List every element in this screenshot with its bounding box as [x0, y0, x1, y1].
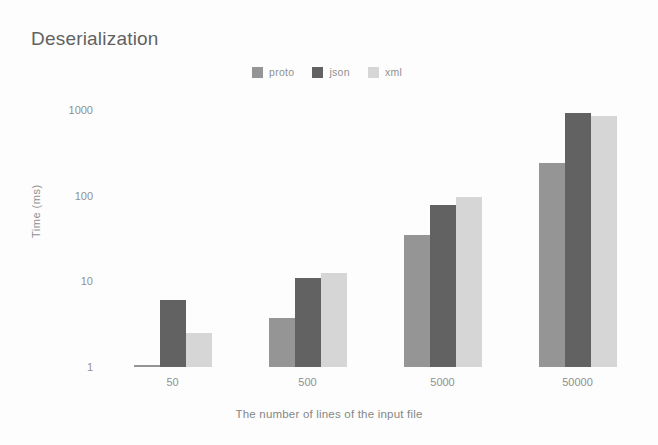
- bars-wrapper: [404, 110, 482, 367]
- chart-legend: protojsonxml: [252, 66, 402, 78]
- legend-item-xml[interactable]: xml: [368, 66, 402, 78]
- chart-figure: Deserialization protojsonxml Time (ms) 1…: [0, 0, 658, 445]
- legend-label-json: json: [329, 66, 349, 78]
- bars-wrapper: [134, 110, 212, 367]
- bar-xml-50000[interactable]: [591, 116, 617, 367]
- bars-wrapper: [269, 110, 347, 367]
- bar-proto-500[interactable]: [269, 318, 295, 367]
- bar-xml-500[interactable]: [321, 273, 347, 367]
- x-axis-title: The number of lines of the input file: [0, 408, 658, 420]
- y-tick-label: 1000: [69, 104, 93, 116]
- legend-swatch-json: [312, 67, 323, 78]
- legend-label-proto: proto: [269, 66, 294, 78]
- bars-wrapper: [539, 110, 617, 367]
- x-tick-label: 50000: [562, 376, 593, 388]
- bar-groups: 50500500050000: [105, 110, 645, 367]
- chart-title: Deserialization: [31, 28, 159, 50]
- bar-json-5000[interactable]: [430, 205, 456, 367]
- legend-swatch-xml: [368, 67, 379, 78]
- x-tick-label: 50: [166, 376, 178, 388]
- x-tick-label: 500: [298, 376, 316, 388]
- y-axis-title: Time (ms): [30, 184, 42, 238]
- bar-group-50000: 50000: [510, 110, 645, 367]
- legend-item-proto[interactable]: proto: [252, 66, 294, 78]
- y-tick-label: 100: [75, 190, 93, 202]
- legend-swatch-proto: [252, 67, 263, 78]
- bar-group-500: 500: [240, 110, 375, 367]
- y-tick-label: 10: [81, 275, 93, 287]
- bar-group-50: 50: [105, 110, 240, 367]
- x-tick-label: 5000: [430, 376, 454, 388]
- bar-group-5000: 5000: [375, 110, 510, 367]
- bar-proto-5000[interactable]: [404, 235, 430, 367]
- legend-label-xml: xml: [385, 66, 402, 78]
- bar-proto-50000[interactable]: [539, 163, 565, 367]
- plot-area: 1101001000 50500500050000: [105, 110, 645, 367]
- bar-proto-50[interactable]: [134, 365, 160, 367]
- bar-json-500[interactable]: [295, 278, 321, 367]
- bar-xml-50[interactable]: [186, 333, 212, 367]
- bar-xml-5000[interactable]: [456, 197, 482, 367]
- legend-item-json[interactable]: json: [312, 66, 349, 78]
- y-tick-label: 1: [87, 361, 93, 373]
- bar-json-50000[interactable]: [565, 113, 591, 367]
- bar-json-50[interactable]: [160, 300, 186, 367]
